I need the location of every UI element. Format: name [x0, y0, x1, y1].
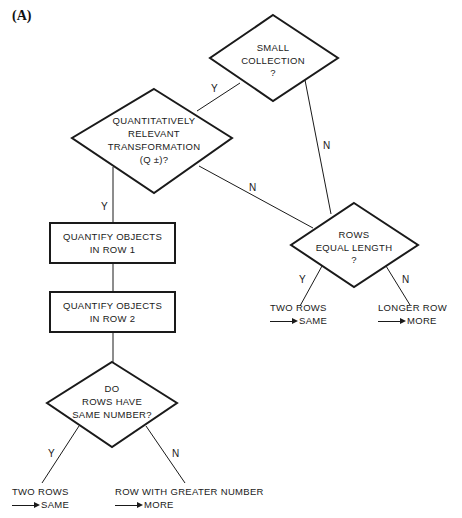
text-line: RELEVANT: [94, 127, 214, 140]
text-line: IN ROW 2: [50, 312, 175, 325]
arrow-right-icon: [12, 505, 38, 506]
node-quantify-row2-label: QUANTIFY OBJECTS IN ROW 2: [50, 299, 175, 325]
text-line: EQUAL LENGTH: [304, 242, 404, 255]
edge-label-same-number-no: N: [172, 448, 179, 459]
outcome-same-number-yes: TWO ROWS SAME: [12, 485, 69, 511]
edge-label-same-number-yes: Y: [48, 448, 55, 459]
outcome-rows-equal-no: LONGER ROW MORE: [378, 301, 447, 327]
edge-rows-equal-no: [386, 266, 410, 305]
node-quantify-row1-label: QUANTIFY OBJECTS IN ROW 1: [50, 230, 175, 256]
outcome-line1: ROW WITH GREATER NUMBER: [115, 485, 264, 498]
node-quant-relevant-label: QUANTITATIVELY RELEVANT TRANSFORMATION (…: [94, 114, 214, 166]
outcome-line1: TWO ROWS: [270, 301, 327, 314]
outcome-line2: MORE: [407, 315, 437, 326]
arrow-right-icon: [270, 321, 296, 322]
text-line: (Q ±)?: [94, 153, 214, 166]
arrow-right-icon: [378, 321, 404, 322]
text-line: QUANTIFY OBJECTS: [50, 230, 175, 243]
text-line: SAME NUMBER?: [62, 408, 162, 421]
text-line: COLLECTION: [223, 55, 323, 68]
node-small-collection-label: SMALL COLLECTION ?: [223, 42, 323, 80]
edge-small-to-quant: [197, 83, 240, 111]
text-line: ?: [223, 67, 323, 80]
edge-label-quant-yes: Y: [101, 201, 108, 212]
text-line: QUANTITATIVELY: [94, 114, 214, 127]
arrow-right-icon: [115, 505, 141, 506]
edge-label-small-no: N: [323, 140, 330, 151]
outcome-line2: SAME: [299, 315, 327, 326]
outcome-same-number-no: ROW WITH GREATER NUMBER MORE: [115, 485, 264, 511]
node-rows-equal-label: ROWS EQUAL LENGTH ?: [304, 229, 404, 267]
edge-label-quant-no: N: [249, 182, 256, 193]
text-line: SMALL: [223, 42, 323, 55]
edge-label-rows-equal-no: N: [402, 274, 409, 285]
edge-quant-to-rows-equal: [199, 166, 313, 228]
edge-label-small-yes: Y: [211, 83, 218, 94]
text-line: ROWS HAVE: [62, 395, 162, 408]
outcome-line1: TWO ROWS: [12, 485, 69, 498]
edge-rows-equal-yes: [300, 266, 322, 306]
outcome-line1: LONGER ROW: [378, 301, 447, 314]
outcome-rows-equal-yes: TWO ROWS SAME: [270, 301, 327, 327]
edge-label-rows-equal-yes: Y: [299, 274, 306, 285]
text-line: ROWS: [304, 229, 404, 242]
text-line: ?: [304, 254, 404, 267]
outcome-line2: SAME: [41, 499, 69, 510]
node-same-number-label: DO ROWS HAVE SAME NUMBER?: [62, 382, 162, 421]
text-line: DO: [62, 382, 162, 395]
text-line: TRANSFORMATION: [94, 140, 214, 153]
text-line: IN ROW 1: [50, 243, 175, 256]
text-line: QUANTIFY OBJECTS: [50, 299, 175, 312]
outcome-line2: MORE: [144, 499, 174, 510]
